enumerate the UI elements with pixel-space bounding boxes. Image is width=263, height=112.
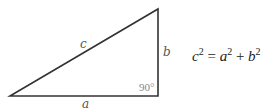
eq-lhs-exp: 2 xyxy=(199,46,204,57)
eq-term2-var: b xyxy=(248,48,256,64)
eq-term2-exp: 2 xyxy=(256,46,261,57)
pythagorean-diagram: c a b 90° c2 = a2 + b2 xyxy=(0,0,263,112)
pythagorean-equation: c2 = a2 + b2 xyxy=(192,48,261,65)
height-label: b xyxy=(163,45,171,59)
right-triangle xyxy=(10,9,158,96)
eq-lhs-var: c xyxy=(192,48,199,64)
eq-term1-exp: 2 xyxy=(227,46,232,57)
right-angle-label: 90° xyxy=(139,81,154,93)
eq-plus: + xyxy=(236,48,244,64)
base-label: a xyxy=(82,97,89,111)
eq-equals: = xyxy=(207,48,215,64)
hypotenuse-label: c xyxy=(80,37,87,51)
